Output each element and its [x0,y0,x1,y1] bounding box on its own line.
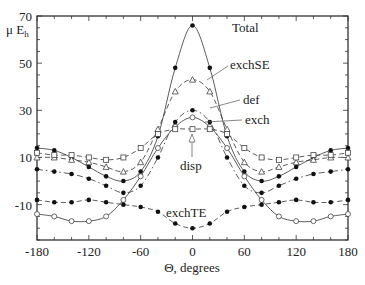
filled-circle-marker [294,198,299,203]
filled-circle-marker [69,172,74,177]
series-label-exchSE: exchSE [230,57,270,72]
open-circle-marker [259,197,264,202]
open-square-marker [52,153,57,158]
filled-circle-marker [328,200,333,205]
filled-circle-marker [190,23,195,28]
arrow-head-icon [189,134,195,142]
x-tick-label: 120 [286,244,306,259]
open-triangle-marker [276,164,282,170]
open-circle-marker [190,115,195,120]
filled-circle-marker [190,226,195,231]
filled-circle-marker [52,200,57,205]
filled-circle-marker [311,172,316,177]
series-label-exch: exch [245,112,270,127]
filled-circle-marker [52,169,57,174]
open-square-marker [104,157,109,162]
y-tick-label: 10 [19,150,32,165]
x-tick-label: -180 [25,244,49,259]
filled-circle-marker [156,155,161,160]
open-circle-marker [276,214,281,219]
y-tick-label: 50 [19,56,32,71]
filled-circle-marker [225,155,230,160]
series-layer [34,23,351,230]
open-circle-marker [121,197,126,202]
filled-circle-marker [225,209,230,214]
open-square-marker [207,127,212,132]
filled-circle-marker [277,174,282,179]
filled-circle-marker [52,148,57,153]
filled-circle-marker [121,202,126,207]
open-square-marker [35,150,40,155]
open-circle-marker [138,174,143,179]
filled-circle-marker [346,198,351,203]
open-square-marker [190,127,195,132]
filled-circle-marker [259,202,264,207]
x-tick-label: -120 [77,244,101,259]
open-square-marker [276,157,281,162]
filled-circle-marker [311,200,316,205]
open-square-marker [346,150,351,155]
open-circle-marker [311,219,316,224]
filled-circle-marker [173,66,178,71]
line-chart: -180-120-6006012018070503010-10 Totalexc… [0,0,365,285]
open-triangle-marker [172,88,178,94]
y-tick-label: 30 [19,103,32,118]
series-def [35,108,351,195]
open-circle-marker [86,219,91,224]
filled-circle-marker [328,169,333,174]
filled-circle-marker [207,66,212,71]
open-circle-marker [328,214,333,219]
series-disp [35,127,351,163]
open-square-marker [173,127,178,132]
open-circle-marker [35,212,40,217]
open-circle-marker [294,219,299,224]
y-axis-label: μ Eh [6,22,29,39]
filled-circle-marker [242,183,247,188]
open-circle-marker [69,219,74,224]
filled-circle-marker [121,179,126,184]
open-circle-marker [242,174,247,179]
filled-circle-marker [259,179,264,184]
filled-circle-marker [277,200,282,205]
series-label-disp: disp [180,158,202,173]
open-square-marker [225,131,230,136]
filled-circle-marker [156,209,161,214]
series-label-Total: Total [232,20,259,35]
open-square-marker [328,153,333,158]
open-circle-marker [104,214,109,219]
filled-circle-marker [104,200,109,205]
filled-circle-marker [35,198,40,203]
filled-circle-marker [35,167,40,172]
filled-circle-marker [104,174,109,179]
open-square-marker [86,155,91,160]
open-square-marker [138,146,143,151]
filled-circle-marker [346,167,351,172]
filled-circle-marker [346,146,351,151]
open-square-marker [294,155,299,160]
filled-circle-marker [138,205,143,210]
filled-circle-marker [121,191,126,196]
open-square-marker [155,131,160,136]
filled-circle-marker [242,205,247,210]
x-tick-label: 60 [238,244,251,259]
filled-circle-marker [173,120,178,125]
open-circle-marker [225,146,230,151]
x-tick-label: -60 [132,244,149,259]
filled-circle-marker [87,165,92,170]
open-triangle-marker [138,159,144,165]
open-square-marker [311,153,316,158]
x-axis-label: Θ, degrees [164,260,220,275]
filled-circle-marker [259,191,264,196]
open-square-marker [121,155,126,160]
filled-circle-marker [87,176,92,181]
open-circle-marker [52,214,57,219]
filled-circle-marker [87,198,92,203]
open-circle-marker [346,212,351,217]
x-tick-label: 180 [338,244,358,259]
filled-circle-marker [294,165,299,170]
filled-circle-marker [138,183,143,188]
open-circle-marker [155,146,160,151]
y-tick-label: -10 [15,198,32,213]
annotation-layer: TotalexchSEdefexchdispexchTE [166,20,270,220]
filled-circle-marker [277,183,282,188]
